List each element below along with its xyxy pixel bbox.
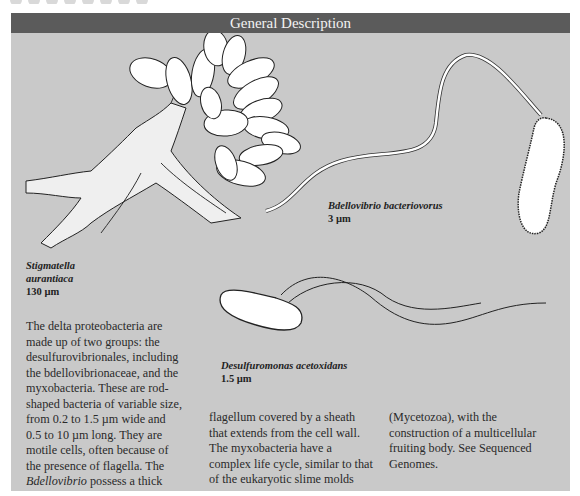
desulfuromonas-caption: Desulfuromonas acetoxidans 1.5 µm [221, 359, 347, 385]
general-description-panel: General Description [11, 13, 570, 491]
cell-size: 130 µm [26, 285, 75, 298]
text-line: made up of two groups: the [26, 335, 206, 351]
cut-off-title-fragment [10, 0, 180, 4]
text-line: of the eukaryotic slime molds [209, 472, 394, 488]
text-line: desulfurovibrionales, including [26, 350, 206, 366]
text-line: construction of a multicellular [389, 426, 564, 442]
text-line: motile cells, often because of [26, 443, 206, 459]
desulfuromonas-illustration [220, 277, 546, 330]
body-column-3: (Mycetozoa), with the construction of a … [389, 410, 564, 472]
species-name: Stigmatella [26, 259, 75, 272]
text-line: the presence of flagella. The [26, 459, 206, 475]
stigmatella-caption: Stigmatella aurantiaca 130 µm [26, 259, 75, 298]
genus-name: Bdellovibrio [26, 474, 87, 488]
text-line: myxobacteria. These are rod- [26, 381, 206, 397]
text-fragment: possess a thick [87, 474, 163, 488]
body-column-2: flagellum covered by a sheath that exten… [209, 410, 394, 488]
text-line: complex life cycle, similar to that [209, 457, 394, 473]
species-name: Bdellovibrio bacteriovorus [328, 199, 443, 212]
cell-size: 1.5 µm [221, 372, 347, 385]
stigmatella-illustration [26, 33, 303, 248]
text-line: The myxobacteria have a [209, 441, 394, 457]
text-line: flagellum covered by a sheath [209, 410, 394, 426]
text-line: 0.5 to 10 µm long. They are [26, 428, 206, 444]
text-line: (Mycetozoa), with the [389, 410, 564, 426]
section-header: General Description [11, 13, 570, 33]
species-name: Desulfuromonas acetoxidans [221, 359, 347, 372]
body-column-1: The delta proteobacteria are made up of … [26, 319, 206, 490]
text-line: Bdellovibrio possess a thick [26, 474, 206, 490]
text-line: Genomes. [389, 457, 564, 473]
cell-size: 3 µm [328, 212, 443, 225]
text-line: the bdellovibrionaceae, and the [26, 366, 206, 382]
species-name: aurantiaca [26, 272, 75, 285]
text-line: that extends from the cell wall. [209, 426, 394, 442]
text-line: from 0.2 to 1.5 µm wide and [26, 412, 206, 428]
text-line: shaped bacteria of variable size, [26, 397, 206, 413]
text-line: fruiting body. See Sequenced [389, 441, 564, 457]
bdellovibrio-caption: Bdellovibrio bacteriovorus 3 µm [328, 199, 443, 225]
text-line: The delta proteobacteria are [26, 319, 206, 335]
